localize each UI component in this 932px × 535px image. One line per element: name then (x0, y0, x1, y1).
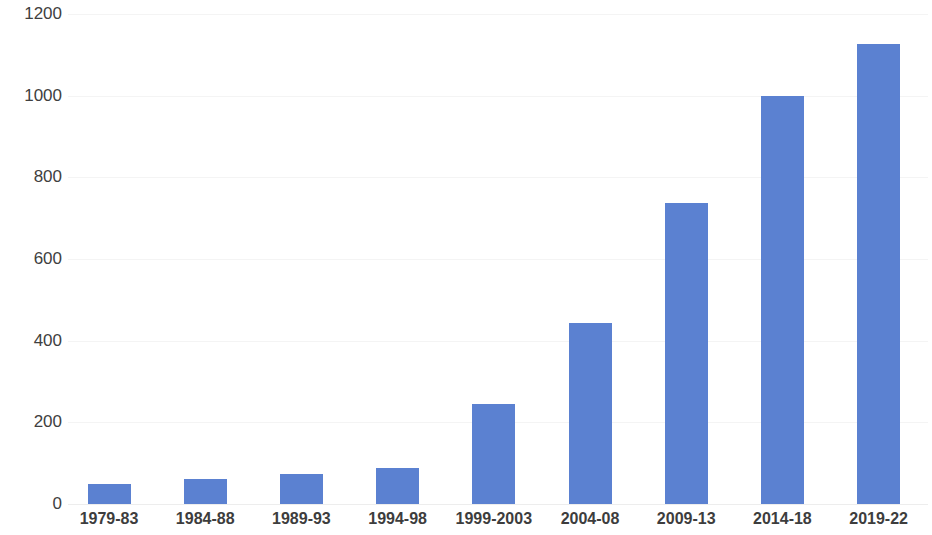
bar-chart: 020040060080010001200 1979-831984-881989… (0, 0, 932, 535)
x-axis-tick-label: 1999-2003 (456, 510, 533, 528)
bar (761, 96, 804, 504)
bar (88, 484, 131, 504)
bar (280, 474, 323, 504)
x-axis-tick-label: 1979-83 (80, 510, 139, 528)
x-axis-tick-label: 2004-08 (561, 510, 620, 528)
x-axis-tick-label: 2014-18 (753, 510, 812, 528)
bar-series (0, 0, 932, 535)
x-axis-tick-label: 1994-98 (368, 510, 427, 528)
bar (665, 203, 708, 504)
bar (184, 479, 227, 504)
bar (857, 44, 900, 504)
x-axis-tick-label: 1989-93 (272, 510, 331, 528)
x-axis-tick-label: 2019-22 (849, 510, 908, 528)
bar (472, 404, 515, 504)
bar (376, 468, 419, 504)
x-axis-tick-label: 1984-88 (176, 510, 235, 528)
bar (569, 323, 612, 504)
x-axis-tick-label: 2009-13 (657, 510, 716, 528)
